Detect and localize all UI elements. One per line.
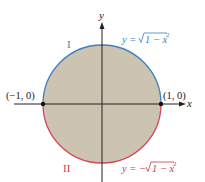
region-II-label: II (63, 162, 71, 174)
lower-eq-radicand: 1 − x (152, 163, 175, 174)
y-axis-label: y (98, 9, 104, 21)
x-axis-label: x (186, 97, 192, 109)
y-axis-arrow-icon (100, 22, 105, 29)
lower-equation: y = − 1 − x 2 (121, 160, 177, 174)
region-I-label: I (67, 38, 71, 50)
lower-eq-lhs: y = − (121, 163, 146, 174)
upper-eq-radicand: 1 − x (145, 34, 168, 45)
left-point (41, 102, 45, 106)
upper-equation: y = 1 − x 2 (121, 31, 170, 45)
right-point-label: (1, 0) (163, 90, 186, 102)
lower-eq-exponent: 2 (173, 160, 177, 168)
x-axis-arrow-icon (179, 102, 186, 107)
upper-eq-lhs: y = (121, 34, 136, 45)
upper-eq-exponent: 2 (166, 31, 170, 39)
right-point (159, 102, 163, 106)
unit-circle-diagram: y x (−1, 0) (1, 0) I II y = 1 − x 2 y = … (0, 0, 205, 182)
left-point-label: (−1, 0) (6, 90, 35, 102)
